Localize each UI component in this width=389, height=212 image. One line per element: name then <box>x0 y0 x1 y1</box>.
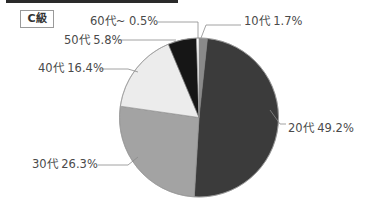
label-30s: 30代 26.3% <box>32 158 98 171</box>
label-20s: 20代 49.2% <box>288 122 354 135</box>
pie-slice-30代 <box>120 106 200 197</box>
leader-line <box>201 25 241 38</box>
label-50s: 50代 5.8% <box>64 34 123 47</box>
pie-chart <box>0 0 389 212</box>
label-10s: 10代 1.7% <box>244 15 303 28</box>
leader-line <box>100 69 138 72</box>
leader-line <box>158 22 198 38</box>
label-60s: 60代~ 0.5% <box>90 15 158 28</box>
label-40s: 40代 16.4% <box>38 62 104 75</box>
pie-slice-20代 <box>194 38 278 197</box>
